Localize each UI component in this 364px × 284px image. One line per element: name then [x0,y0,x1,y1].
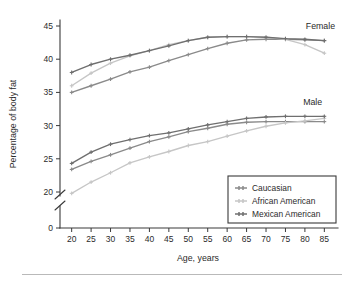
x-axis-tick-label: 70 [261,234,271,244]
x-axis-tick-label: 60 [222,234,232,244]
y-axis-tick-label: 35 [44,87,54,97]
x-axis-tick-label: 85 [320,234,330,244]
x-axis-tick-label: 75 [281,234,291,244]
x-axis-tick-label: 80 [300,234,310,244]
series-line-female-african-american [72,37,325,86]
x-axis-tick-label: 35 [125,234,135,244]
y-axis-tick-label: 0 [48,223,53,233]
series-line-female-caucasian [72,39,325,92]
annotation-layer: FemaleMale [303,21,335,107]
group-label-male: Male [303,97,322,107]
legend-label: Mexican American [252,209,321,219]
series-layer [70,35,326,196]
y-axis-tick-label: 45 [44,21,54,31]
y-axis-tick-label: 20 [44,187,54,197]
x-axis-title: Age, years [177,253,220,263]
y-axis-tick-label: 25 [44,154,54,164]
footer-divider [22,274,342,275]
x-axis-tick-label: 40 [145,234,155,244]
chart-canvas: 0202530354045202530354045505560657075808… [0,0,364,284]
axes-layer: 0202530354045202530354045505560657075808… [8,20,338,263]
group-label-female: Female [306,21,335,31]
x-axis-tick-label: 50 [184,234,194,244]
body-fat-by-age-chart: 0202530354045202530354045505560657075808… [0,0,364,284]
x-axis-tick-label: 25 [86,234,96,244]
y-axis-tick-label: 40 [44,54,54,64]
x-axis-tick-label: 30 [106,234,116,244]
x-axis-tick-label: 45 [164,234,174,244]
series-line-male-caucasian [72,122,325,170]
legend-label: Caucasian [252,183,292,193]
y-axis-tick-label: 30 [44,121,54,131]
series-line-female-mexican-american [72,37,325,73]
legend-layer[interactable]: CaucasianAfrican AmericanMexican America… [228,176,336,223]
legend-label: African American [252,196,316,206]
y-axis-title: Percentage of body fat [8,79,18,168]
x-axis-tick-label: 20 [67,234,77,244]
x-axis-tick-label: 55 [203,234,213,244]
x-axis-tick-label: 65 [242,234,252,244]
